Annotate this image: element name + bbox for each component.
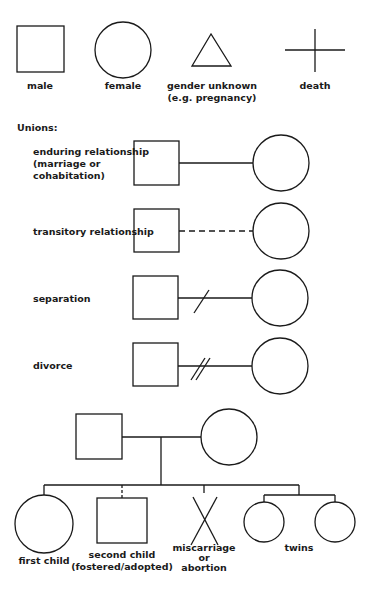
twin-circle-icon: [315, 502, 355, 542]
child-twins: twins: [244, 485, 355, 553]
male-square-icon: [133, 276, 178, 319]
miscarriage-label-3: abortion: [181, 562, 227, 573]
child-miscarriage: miscarriage or abortion: [172, 485, 235, 573]
female-circle-icon: [252, 270, 308, 326]
female-circle-icon: [95, 22, 151, 78]
separation-label: separation: [33, 293, 91, 304]
female-circle-icon: [15, 495, 73, 553]
female-circle-icon: [253, 135, 309, 191]
symbol-male: male: [17, 26, 64, 91]
gender-unknown-label-1: gender unknown: [167, 80, 257, 91]
x-mark-icon-b: [191, 497, 217, 545]
family-parents: [44, 409, 299, 485]
genogram-legend-diagram: male female gender unknown (e.g. pregnan…: [0, 0, 374, 598]
child-first: first child: [15, 485, 73, 566]
single-slash-icon: [194, 290, 209, 313]
second-child-label-2: (fostered/adopted): [71, 561, 173, 572]
father-square-icon: [76, 414, 122, 459]
female-circle-icon: [252, 338, 308, 394]
union-transitory: transitory relationship: [33, 203, 309, 259]
death-label: death: [300, 80, 331, 91]
female-circle-icon: [253, 203, 309, 259]
divorce-label: divorce: [33, 360, 73, 371]
second-child-label-1: second child: [89, 549, 156, 560]
enduring-label-3: cohabitation): [33, 170, 105, 181]
mother-circle-icon: [201, 409, 257, 465]
transitory-label: transitory relationship: [33, 226, 154, 237]
gender-unknown-label-2: (e.g. pregnancy): [168, 92, 257, 103]
x-mark-icon-a: [193, 497, 218, 545]
twin-circle-icon: [244, 502, 284, 542]
union-separation: separation: [33, 270, 308, 326]
union-divorce: divorce: [33, 338, 308, 394]
union-enduring: enduring relationship (marriage or cohab…: [33, 135, 309, 191]
male-square-icon: [17, 26, 64, 72]
child-second: second child (fostered/adopted): [71, 485, 173, 572]
symbol-death: death: [285, 29, 345, 91]
first-child-label: first child: [19, 555, 70, 566]
unions-heading: Unions:: [17, 122, 57, 133]
symbol-gender-unknown: gender unknown (e.g. pregnancy): [167, 34, 257, 103]
enduring-label-2: (marriage or: [33, 158, 101, 169]
symbol-female: female: [95, 22, 151, 91]
male-label: male: [27, 80, 53, 91]
female-label: female: [105, 80, 142, 91]
triangle-icon: [192, 34, 231, 66]
twins-label: twins: [285, 542, 314, 553]
enduring-label-1: enduring relationship: [33, 146, 149, 157]
male-square-icon: [97, 498, 147, 543]
male-square-icon: [133, 343, 178, 386]
